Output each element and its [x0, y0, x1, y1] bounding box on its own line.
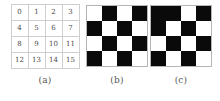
- index-table-body: 0 1 2 3 4 5 6 7 8 9 10 1: [11, 4, 79, 68]
- table-cell: 4: [11, 20, 28, 36]
- panel-caption-b: (b): [110, 76, 123, 85]
- board-cell-white: [102, 51, 117, 66]
- figure-container: 0 1 2 3 4 5 6 7 8 9 10 1: [0, 0, 220, 101]
- table-cell: 7: [62, 20, 79, 36]
- board-cell-white: [166, 21, 181, 36]
- board-cell-black: [87, 21, 102, 36]
- board-cell-white: [102, 21, 117, 36]
- board-cell-white: [151, 36, 166, 51]
- table-cell: 8: [11, 36, 28, 52]
- index-table: 0 1 2 3 4 5 6 7 8 9 10 1: [11, 4, 80, 69]
- panel-b: (b): [84, 0, 150, 85]
- table-row: 4 5 6 7: [11, 20, 79, 36]
- board-cell-white: [196, 51, 211, 66]
- board-cell-black: [166, 6, 181, 21]
- panel-c: (c): [146, 0, 216, 85]
- board-cell-black: [132, 6, 147, 21]
- panel-a: 0 1 2 3 4 5 6 7 8 9 10 1: [4, 0, 86, 85]
- board-cell-black: [166, 36, 181, 51]
- board-cell-white: [166, 51, 181, 66]
- board-cell-black: [151, 6, 166, 21]
- board-cell-black: [87, 51, 102, 66]
- board-cell-white: [181, 36, 196, 51]
- board-cell-black: [132, 36, 147, 51]
- table-cell: 5: [28, 20, 45, 36]
- table-cell: 6: [45, 20, 62, 36]
- board-cell-black: [196, 36, 211, 51]
- board-cell-white: [117, 6, 132, 21]
- board-cell-black: [181, 21, 196, 36]
- table-row: 12 13 14 15: [11, 52, 79, 68]
- panel-c-artwork: [150, 0, 212, 72]
- board-cell-black: [117, 21, 132, 36]
- board-cell-black: [102, 6, 117, 21]
- board-cell-white: [181, 6, 196, 21]
- panel-caption-a: (a): [39, 76, 52, 85]
- table-cell: 2: [45, 4, 62, 20]
- table-cell: 9: [28, 36, 45, 52]
- table-cell: 11: [62, 36, 79, 52]
- table-row: 8 9 10 11: [11, 36, 79, 52]
- table-cell: 12: [11, 52, 28, 68]
- board-cell-black: [181, 51, 196, 66]
- table-cell: 15: [62, 52, 79, 68]
- table-cell: 13: [28, 52, 45, 68]
- panel-a-artwork: 0 1 2 3 4 5 6 7 8 9 10 1: [11, 0, 80, 72]
- board-cell-white: [87, 6, 102, 21]
- table-cell: 3: [62, 4, 79, 20]
- board-cell-black: [151, 21, 166, 36]
- board-cell-white: [117, 36, 132, 51]
- table-cell: 0: [11, 4, 28, 20]
- checkerboard-c: [150, 5, 212, 67]
- table-cell: 10: [45, 36, 62, 52]
- board-cell-white: [132, 21, 147, 36]
- board-cell-black: [196, 6, 211, 21]
- board-cell-white: [87, 36, 102, 51]
- panel-caption-c: (c): [175, 76, 188, 85]
- panel-b-artwork: [86, 0, 148, 72]
- checkerboard-b: [86, 5, 148, 67]
- board-cell-black: [117, 51, 132, 66]
- table-cell: 1: [28, 4, 45, 20]
- board-cell-black: [102, 36, 117, 51]
- table-row: 0 1 2 3: [11, 4, 79, 20]
- table-cell: 14: [45, 52, 62, 68]
- board-cell-black: [151, 51, 166, 66]
- board-cell-white: [132, 51, 147, 66]
- board-cell-white: [196, 21, 211, 36]
